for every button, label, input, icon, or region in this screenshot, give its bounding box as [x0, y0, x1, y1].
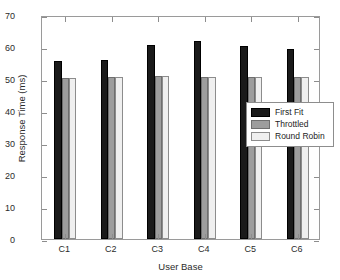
- y-tick-mark: [314, 177, 319, 178]
- bar-group: [194, 17, 216, 239]
- bar: [194, 41, 201, 239]
- y-tick-label: 30: [0, 140, 15, 149]
- y-tick-label: 70: [0, 12, 15, 21]
- bar: [115, 77, 122, 239]
- x-tick-label: C4: [184, 245, 224, 254]
- y-tick-mark: [314, 209, 319, 210]
- y-tick-mark: [42, 145, 47, 146]
- bar: [101, 60, 108, 239]
- x-tick-mark: [158, 234, 159, 239]
- x-tick-label: C2: [91, 245, 131, 254]
- x-axis-title: User Base: [41, 261, 320, 272]
- legend-label-first-fit: First Fit: [275, 108, 303, 117]
- y-tick-label: 40: [0, 108, 15, 117]
- y-axis-title: Response Time (ms): [16, 49, 27, 189]
- x-tick-mark: [298, 17, 299, 22]
- bar-group: [147, 17, 169, 239]
- bar: [62, 78, 69, 239]
- legend-swatch-throttled: [251, 120, 270, 129]
- y-tick-mark: [314, 49, 319, 50]
- y-tick-mark: [42, 241, 47, 242]
- x-tick-label: C6: [277, 245, 317, 254]
- x-tick-mark: [251, 17, 252, 22]
- bar: [147, 45, 154, 239]
- bar: [162, 76, 169, 239]
- bar-chart-figure: First Fit Throttled Round Robin 01020304…: [0, 0, 340, 280]
- bar: [155, 76, 162, 239]
- y-tick-mark: [42, 49, 47, 50]
- x-tick-mark: [65, 234, 66, 239]
- x-tick-mark: [112, 234, 113, 239]
- x-tick-label: C1: [44, 245, 84, 254]
- legend-swatch-first-fit: [251, 108, 270, 117]
- y-tick-mark: [314, 81, 319, 82]
- bar: [108, 77, 115, 239]
- legend-label-round-robin: Round Robin: [275, 132, 325, 141]
- x-tick-mark: [205, 17, 206, 22]
- bar: [208, 77, 215, 239]
- bar: [201, 77, 208, 239]
- y-tick-mark: [42, 17, 47, 18]
- y-tick-label: 20: [0, 172, 15, 181]
- x-tick-label: C5: [230, 245, 270, 254]
- x-tick-mark: [298, 234, 299, 239]
- y-tick-label: 50: [0, 76, 15, 85]
- y-tick-mark: [42, 113, 47, 114]
- y-tick-label: 60: [0, 44, 15, 53]
- legend-item: First Fit: [251, 107, 329, 118]
- bar: [69, 78, 76, 239]
- legend-item: Throttled: [251, 119, 329, 130]
- y-tick-mark: [42, 177, 47, 178]
- y-tick-mark: [42, 209, 47, 210]
- x-tick-mark: [205, 234, 206, 239]
- legend-label-throttled: Throttled: [275, 120, 309, 129]
- x-tick-label: C3: [137, 245, 177, 254]
- plot-area: First Fit Throttled Round Robin: [41, 16, 320, 240]
- bar: [54, 61, 61, 239]
- x-tick-mark: [251, 234, 252, 239]
- bar-group: [101, 17, 123, 239]
- legend-swatch-round-robin: [251, 132, 270, 141]
- x-tick-mark: [158, 17, 159, 22]
- y-tick-label: 0: [0, 236, 15, 245]
- x-tick-mark: [112, 17, 113, 22]
- y-tick-mark: [314, 17, 319, 18]
- y-tick-label: 10: [0, 204, 15, 213]
- x-tick-mark: [65, 17, 66, 22]
- chart-legend: First Fit Throttled Round Robin: [246, 102, 334, 147]
- bar-group: [54, 17, 76, 239]
- legend-item: Round Robin: [251, 131, 329, 142]
- y-tick-mark: [42, 81, 47, 82]
- y-tick-mark: [314, 241, 319, 242]
